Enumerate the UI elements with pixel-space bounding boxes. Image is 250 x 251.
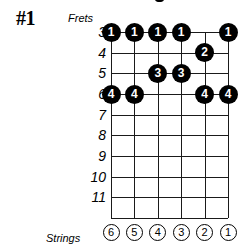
fret-line xyxy=(111,197,228,198)
finger-dot-fret3-string5: 1 xyxy=(125,23,144,42)
fret-number-11: 11 xyxy=(78,190,106,204)
finger-dot-fret3-string3: 1 xyxy=(172,23,191,42)
finger-dot-fret3-string4: 1 xyxy=(148,23,167,42)
string-number-3: 3 xyxy=(173,224,190,241)
pattern-label: #1 xyxy=(16,8,35,28)
finger-dot-fret6-string2: 4 xyxy=(195,85,214,104)
fret-line xyxy=(111,177,228,178)
string-number-2: 2 xyxy=(196,224,213,241)
string-line xyxy=(181,32,182,218)
fret-number-10: 10 xyxy=(78,170,106,184)
fret-number-7: 7 xyxy=(78,108,106,122)
finger-dot-fret6-string6: 4 xyxy=(102,85,121,104)
fretboard-grid: 111112334444 xyxy=(111,32,228,218)
string-line xyxy=(228,32,229,218)
finger-dot-fret5-string3: 3 xyxy=(172,64,191,83)
guitar-fretboard-diagram: #1 Frets 34567891011 111112334444 654321… xyxy=(0,0,250,251)
fret-line xyxy=(111,218,228,219)
string-number-1: 1 xyxy=(220,224,237,241)
fret-number-5: 5 xyxy=(78,66,106,80)
clipped-edge-artifact xyxy=(155,0,164,2)
fret-line xyxy=(111,156,228,157)
finger-dot-fret5-string4: 3 xyxy=(148,64,167,83)
fret-line xyxy=(111,115,228,116)
finger-dot-fret4-string2: 2 xyxy=(195,43,214,62)
fret-number-4: 4 xyxy=(78,46,106,60)
string-number-row: 654321 xyxy=(111,224,228,244)
strings-axis-label: Strings xyxy=(46,232,80,244)
finger-dot-fret6-string1: 4 xyxy=(219,85,238,104)
fret-line xyxy=(111,73,228,74)
string-line xyxy=(158,32,159,218)
finger-dot-fret3-string6: 1 xyxy=(102,23,121,42)
frets-axis-label: Frets xyxy=(68,12,93,24)
string-number-4: 4 xyxy=(149,224,166,241)
finger-dot-fret3-string1: 1 xyxy=(219,23,238,42)
finger-dot-fret6-string5: 4 xyxy=(125,85,144,104)
fret-number-gutter: 34567891011 xyxy=(78,32,106,218)
string-number-5: 5 xyxy=(126,224,143,241)
fret-line xyxy=(111,135,228,136)
fret-number-9: 9 xyxy=(78,149,106,163)
string-number-6: 6 xyxy=(103,224,120,241)
string-line xyxy=(111,32,112,218)
fret-number-8: 8 xyxy=(78,128,106,142)
string-line xyxy=(134,32,135,218)
